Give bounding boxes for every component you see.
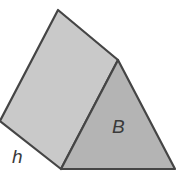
base-label: B [112,116,125,137]
triangular-prism-diagram: B h [0,0,192,176]
height-label: h [12,146,23,167]
